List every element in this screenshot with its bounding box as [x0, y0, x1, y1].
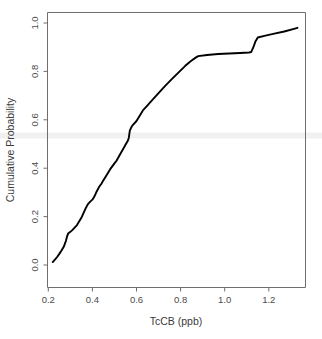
x-tick-label-3: 0.8 [174, 294, 187, 305]
y-tick-label-0: 0.0 [29, 258, 40, 271]
x-tick-label-2: 0.6 [130, 294, 143, 305]
x-tick-label-5: 1.2 [262, 294, 275, 305]
y-tick-label-2: 0.4 [29, 162, 40, 175]
chart-canvas: 0.0 0.2 0.4 0.6 0.8 1.0 0.2 0.4 0.6 0.8 … [0, 0, 322, 339]
y-tick-label-3: 0.6 [29, 113, 40, 126]
y-axis-title: Cumulative Probability [4, 97, 16, 202]
horizontal-scan-band [0, 133, 322, 139]
y-tick-label-5: 1.0 [29, 16, 40, 29]
x-tick-label-1: 0.4 [86, 294, 99, 305]
x-tick-label-0: 0.2 [42, 294, 55, 305]
y-tick-label-1: 0.2 [29, 210, 40, 223]
x-tick-label-4: 1.0 [218, 294, 231, 305]
y-tick-label-4: 0.8 [29, 65, 40, 78]
ecdf-chart-figure: 0.0 0.2 0.4 0.6 0.8 1.0 0.2 0.4 0.6 0.8 … [0, 0, 322, 339]
x-axis-title: TcCB (ppb) [150, 315, 203, 327]
